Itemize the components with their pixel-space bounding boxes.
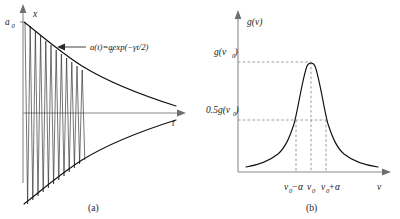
panel-a-y-axis-label: x — [32, 9, 38, 19]
panel-a-annotation-arrow — [57, 44, 86, 51]
panel-b-halfmax-label: 0.5g(ν 0 ) — [206, 105, 239, 117]
panel-a-y-tick-label-main: a — [5, 17, 10, 27]
panel-b-xtick-2-tail: +α — [329, 182, 341, 192]
panel-a: x t a 0 a(t)=a 0 exp(−γt/2) (a) — [5, 4, 186, 214]
panel-a-y-tick-label-sub: 0 — [12, 22, 16, 29]
panel-b-x-axis — [238, 169, 391, 176]
lorentzian-curve — [246, 63, 378, 167]
panel-b-xtick-0-tail: −α — [292, 182, 304, 192]
figure-container: x t a 0 a(t)=a 0 exp(−γt/2) (a) — [0, 0, 400, 219]
panel-b-peak-label-tail: ) — [234, 47, 238, 58]
panel-b-y-axis — [235, 10, 242, 172]
panel-a-caption: (a) — [88, 203, 99, 214]
formula-tail: exp(−γt/2) — [113, 42, 149, 52]
panel-a-x-axis — [23, 110, 186, 117]
panel-b-halfmax-label-main: 0.5g(ν — [206, 105, 231, 116]
damped-oscillation-trace — [25, 22, 85, 204]
panel-b-xtick-1-sub: 0 — [312, 187, 316, 194]
lower-envelope-curve — [24, 120, 176, 204]
panel-b-halfmax-label-tail: ) — [235, 105, 239, 116]
panel-b-caption: (b) — [306, 203, 317, 214]
panel-b-x-axis-label: ν — [377, 182, 382, 192]
panel-b-xtick-1: ν 0 — [307, 182, 316, 194]
panel-b-peak-label: g(ν 0 ) — [214, 47, 238, 59]
panel-b-xtick-2: ν 0 +α — [321, 182, 341, 194]
two-panel-figure: x t a 0 a(t)=a 0 exp(−γt/2) (a) — [0, 0, 400, 219]
panel-b: g(ν 0 ) 0.5g(ν 0 ) ν 0 −α ν 0 ν 0 — [206, 10, 391, 214]
panel-b-xtick-0: ν 0 −α — [284, 182, 304, 194]
panel-a-formula-annotation: a(t)=a 0 exp(−γt/2) — [90, 42, 149, 54]
panel-a-x-axis-label: t — [172, 118, 175, 128]
panel-b-y-axis-label: g(ν) — [247, 17, 262, 28]
panel-b-peak-label-main: g(ν — [214, 47, 227, 58]
panel-a-y-tick-label: a 0 — [5, 17, 16, 29]
